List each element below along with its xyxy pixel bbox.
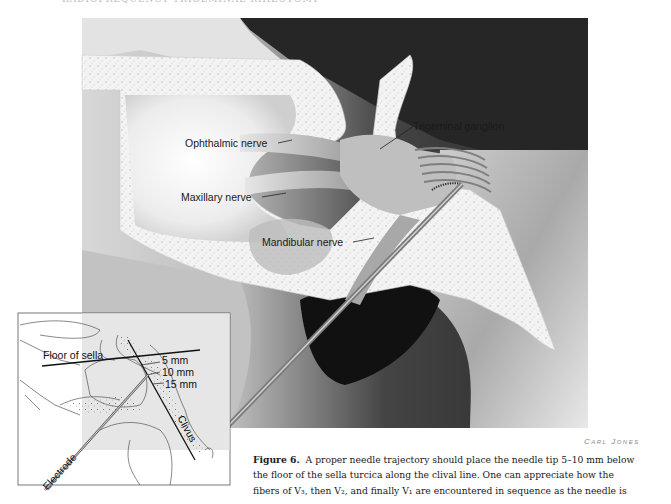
- inset-label-10mm: 10 mm: [162, 366, 194, 378]
- running-header: RADIOFREQUENCY TRIGEMINAL RHIZOTOMY: [62, 0, 322, 4]
- inset-label-5mm: 5 mm: [162, 354, 188, 366]
- trigeminal-illustration: [0, 0, 671, 504]
- caption-line-3: fibers of V₃, then V₂, and finally V₁ ar…: [253, 483, 671, 498]
- label-maxillary-nerve: Maxillary nerve: [181, 191, 252, 203]
- inset-label-floor-of-sella: Floor of sella: [43, 349, 103, 361]
- label-mandibular-nerve: Mandibular nerve: [262, 236, 343, 248]
- label-ophthalmic-nerve: Ophthalmic nerve: [185, 137, 267, 149]
- label-trigeminal-ganglion: Trigeminal ganglion: [413, 120, 504, 132]
- caption-line-2: the floor of the sella turcica along the…: [253, 467, 671, 482]
- caption-line-1: Figure 6.A proper needle trajectory shou…: [253, 452, 671, 467]
- figure-caption: Figure 6.A proper needle trajectory shou…: [253, 452, 671, 498]
- anatomical-figure: RADIOFREQUENCY TRIGEMINAL RHIZOTOMY Opht…: [0, 0, 671, 504]
- figure-number: Figure 6.: [253, 454, 300, 465]
- inset-label-15mm: 15 mm: [165, 378, 197, 390]
- illustrator-signature: Carl Jones: [584, 437, 640, 446]
